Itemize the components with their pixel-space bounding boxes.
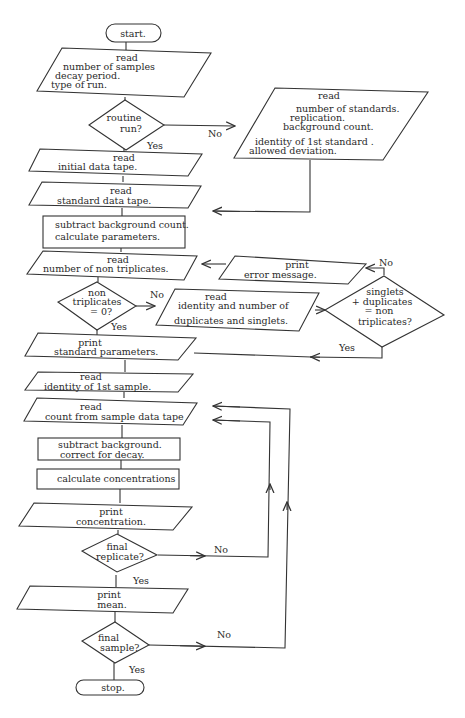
io-line: initial data tape. — [58, 161, 137, 172]
io-line: number of non triplicates. — [43, 263, 169, 274]
edge-label-no: No — [208, 128, 222, 139]
decision-line: routine — [107, 112, 142, 123]
stop-terminal: stop. — [76, 680, 144, 695]
calculate-concentrations-process: calculate concentrations — [37, 469, 179, 489]
print-concentration-io: print concentration. — [19, 503, 192, 530]
io-line: read — [318, 90, 340, 101]
decision-line: run? — [120, 123, 142, 134]
io-line: allowed deviation. — [249, 145, 337, 156]
io-line: duplicates and singlets. — [174, 315, 288, 326]
process-line: subtract background count. — [55, 219, 189, 230]
decision-line: triplicates? — [358, 316, 412, 327]
io-line: concentration. — [76, 516, 146, 527]
io-line: standard data tape. — [57, 195, 151, 206]
process-line: calculate concentrations — [57, 473, 176, 484]
edge-label-yes: Yes — [146, 140, 163, 151]
stop-label: stop. — [101, 682, 125, 693]
print-error-io: print error message. — [219, 256, 366, 284]
start-label: start. — [120, 28, 146, 39]
decision-line: replicate? — [96, 551, 144, 562]
decision-line: = 0? — [90, 306, 112, 317]
start-terminal: start. — [106, 24, 161, 42]
process-line: calculate parameters. — [55, 231, 160, 242]
read-non-triplicates-io: read number of non triplicates. — [27, 251, 197, 280]
edge-label-no: No — [379, 257, 393, 268]
read-duplicates-singlets-io: read identity and number of duplicates a… — [156, 289, 319, 331]
print-mean-io: print mean. — [17, 586, 188, 613]
edge-label-no: No — [150, 289, 164, 300]
edge-label-no: No — [217, 629, 231, 640]
read-first-sample-io: read identity of 1st sample. — [25, 371, 193, 392]
edge-label-yes: Yes — [128, 664, 145, 675]
singlets-duplicates-decision: singlets + duplicates = non triplicates? — [325, 276, 444, 347]
io-line: standard parameters. — [54, 346, 158, 357]
read-standards-io: read number of standards. replication. b… — [234, 88, 428, 160]
io-line: type of run. — [51, 79, 107, 90]
decision-line: = non — [365, 305, 394, 316]
read-initial-tape-io: read initial data tape. — [29, 149, 202, 176]
print-standard-parameters-io: print standard parameters. — [25, 333, 196, 360]
io-line: identity and number of — [178, 300, 290, 311]
io-line: background count. — [283, 121, 374, 132]
io-line: mean. — [97, 599, 126, 610]
io-line: count from sample data tape — [45, 411, 184, 422]
edge-label-yes: Yes — [338, 342, 355, 353]
final-sample-decision: final sample? — [82, 622, 149, 663]
flowchart: start. read number of samples decay peri… — [0, 0, 465, 718]
subtract-background-calc-process: subtract background count. calculate par… — [43, 216, 189, 248]
edge-label-yes: Yes — [132, 575, 149, 586]
read-count-sample-tape-io: read count from sample data tape — [24, 398, 197, 425]
decision-line: sample? — [100, 642, 139, 653]
read-standard-tape-io: read standard data tape. — [29, 182, 201, 208]
read-samples-io: read number of samples decay period. typ… — [37, 48, 211, 97]
edge-label-no: No — [214, 544, 228, 555]
io-line: error message. — [244, 269, 317, 280]
process-line: correct for decay. — [60, 449, 145, 460]
final-replicate-decision: final replicate? — [82, 534, 157, 572]
io-line: identity of 1st sample. — [44, 381, 151, 392]
subtract-background-decay-process: subtract background. correct for decay. — [38, 438, 180, 460]
edge-label-yes: Yes — [110, 321, 127, 332]
